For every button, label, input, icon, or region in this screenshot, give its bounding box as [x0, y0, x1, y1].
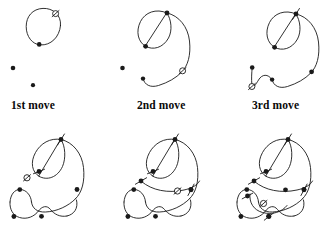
spot-filled-dot [31, 83, 35, 87]
spot-filled-dot [239, 214, 244, 219]
spot-filled-dot [250, 65, 255, 70]
label-2nd: 2nd move [137, 99, 185, 111]
spot-filled-dot [131, 187, 136, 192]
spot-filled-dot [12, 214, 17, 219]
spot-filled-dot [143, 44, 148, 49]
spot-filled-dot [11, 66, 16, 71]
spot-filled-dot [120, 66, 125, 71]
spot-filled-dot [272, 45, 277, 50]
label-1st: 1st move [11, 99, 55, 111]
spot-filled-dot [283, 187, 288, 192]
spot-filled-dot [153, 214, 158, 219]
spot-filled-dot [17, 187, 22, 192]
spot-filled-dot [37, 42, 42, 47]
sprouts-diagram: 1st move2nd move3rd move [0, 0, 336, 226]
labels-layer: 1st move2nd move3rd move [11, 99, 299, 111]
spot-filled-dot [244, 187, 249, 192]
spot-filled-dot [75, 187, 80, 192]
spot-filled-dot [141, 76, 145, 80]
spot-filled-dot [39, 214, 44, 219]
label-3rd: 3rd move [252, 99, 299, 111]
spot-filled-dot [126, 214, 131, 219]
spot-filled-dot [165, 11, 170, 16]
spot-filled-dot [270, 77, 274, 81]
spot-filled-dot [309, 69, 314, 74]
